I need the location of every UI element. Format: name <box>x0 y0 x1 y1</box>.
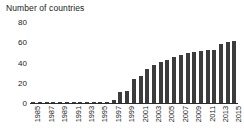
x-tick-slot <box>144 105 151 135</box>
bar-slot <box>164 22 171 103</box>
bar <box>139 76 143 103</box>
bar <box>199 51 203 103</box>
x-axis-line <box>30 103 238 104</box>
x-tick-slot: 1991 <box>70 105 77 135</box>
bar-slot <box>144 22 151 103</box>
bar-slot <box>218 22 225 103</box>
bar-slot <box>57 22 64 103</box>
x-tick-slot <box>37 105 44 135</box>
bar-slot <box>30 22 37 103</box>
bar-slot <box>110 22 117 103</box>
x-tick-slot: 2015 <box>231 105 238 135</box>
bar-slot <box>77 22 84 103</box>
bar-slot <box>124 22 131 103</box>
plot-area: 80 60 40 20 0 <box>30 22 238 103</box>
bar <box>206 50 210 103</box>
x-tick-slot: 2013 <box>218 105 225 135</box>
x-tick-slot: 1999 <box>124 105 131 135</box>
bar-slot <box>137 22 144 103</box>
bar <box>172 57 176 103</box>
bar <box>219 44 223 103</box>
bar-series <box>30 22 238 103</box>
x-tick-slot: 2001 <box>137 105 144 135</box>
bar <box>165 60 169 103</box>
bar-slot <box>104 22 111 103</box>
y-tick-label: 0 <box>23 99 27 108</box>
bar-slot <box>204 22 211 103</box>
x-tick-slot <box>90 105 97 135</box>
bar <box>232 41 236 103</box>
x-tick-slot: 1985 <box>30 105 37 135</box>
y-tick-label: 80 <box>18 18 27 27</box>
x-tick-slot: 1989 <box>57 105 64 135</box>
x-tick-slot <box>64 105 71 135</box>
x-tick-slot <box>157 105 164 135</box>
bar-slot <box>84 22 91 103</box>
x-tick-slot <box>77 105 84 135</box>
bar-slot <box>157 22 164 103</box>
bar-slot <box>64 22 71 103</box>
y-tick-label: 60 <box>18 38 27 47</box>
x-tick-slot <box>211 105 218 135</box>
bar <box>159 62 163 104</box>
bar-slot <box>184 22 191 103</box>
bar <box>118 92 122 103</box>
bar-slot <box>198 22 205 103</box>
bar-slot <box>43 22 50 103</box>
bar <box>226 42 230 103</box>
x-tick-label: 2015 <box>234 106 243 122</box>
bar <box>186 53 190 103</box>
x-tick-slot <box>50 105 57 135</box>
x-tick-slot: 2009 <box>191 105 198 135</box>
y-tick-label: 20 <box>18 78 27 87</box>
x-tick-slot: 1997 <box>110 105 117 135</box>
bar-slot <box>131 22 138 103</box>
x-tick-slot <box>131 105 138 135</box>
bar-slot <box>231 22 238 103</box>
x-tick-slot: 2005 <box>164 105 171 135</box>
bar-slot <box>97 22 104 103</box>
x-tick-slot: 1987 <box>43 105 50 135</box>
x-axis-tick-labels: 1985198719891991199319951997199920012003… <box>30 105 238 135</box>
x-tick-slot <box>198 105 205 135</box>
x-tick-slot: 2003 <box>151 105 158 135</box>
x-tick-slot: 2007 <box>177 105 184 135</box>
bar-slot <box>177 22 184 103</box>
x-tick-slot <box>224 105 231 135</box>
x-tick-slot <box>117 105 124 135</box>
x-tick-slot <box>171 105 178 135</box>
bar-slot <box>117 22 124 103</box>
x-tick-slot: 2011 <box>204 105 211 135</box>
bar-slot <box>70 22 77 103</box>
x-tick-slot: 1993 <box>84 105 91 135</box>
bar-slot <box>151 22 158 103</box>
bar <box>132 79 136 103</box>
bar <box>152 65 156 103</box>
chart-axis-title: Number of countries <box>6 3 84 13</box>
chart-figure: Number of countries 80 60 40 20 0 198519… <box>0 0 244 136</box>
x-tick-slot <box>104 105 111 135</box>
bar-slot <box>171 22 178 103</box>
x-tick-slot <box>184 105 191 135</box>
bar-slot <box>224 22 231 103</box>
bar-slot <box>191 22 198 103</box>
bar <box>179 55 183 103</box>
bar <box>125 91 129 103</box>
x-tick-slot: 1995 <box>97 105 104 135</box>
bar <box>192 52 196 103</box>
bar-slot <box>50 22 57 103</box>
bar <box>145 69 149 103</box>
bar-slot <box>90 22 97 103</box>
bar-slot <box>211 22 218 103</box>
y-tick-label: 40 <box>18 58 27 67</box>
bar <box>212 50 216 103</box>
bar-slot <box>37 22 44 103</box>
